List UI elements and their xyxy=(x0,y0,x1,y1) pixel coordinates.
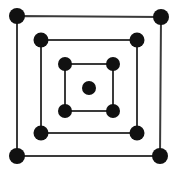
outer-top-right-dot xyxy=(153,9,169,25)
inner-bottom-right-dot xyxy=(106,104,120,118)
outer-top-left-dot xyxy=(9,8,25,24)
center-dot xyxy=(82,81,96,95)
corner-dots xyxy=(9,8,169,164)
outer-bottom-left-dot xyxy=(9,148,25,164)
inner-bottom-left-dot xyxy=(58,104,72,118)
middle-bottom-right-dot xyxy=(130,126,145,141)
middle-top-right-dot xyxy=(130,33,145,48)
concentric-squares-diagram xyxy=(0,0,177,173)
outer-bottom-right-dot xyxy=(152,148,168,164)
middle-bottom-left-dot xyxy=(34,126,49,141)
inner-top-left-dot xyxy=(58,57,72,71)
middle-top-left-dot xyxy=(34,33,49,48)
inner-top-right-dot xyxy=(106,57,120,71)
